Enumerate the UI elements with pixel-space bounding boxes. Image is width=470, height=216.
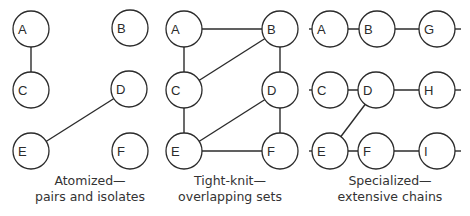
node-label: B (267, 22, 276, 37)
node-label: I (424, 144, 428, 159)
node-label: F (117, 144, 125, 159)
panel-specialized: ABGCDHEFI Specialized— extensive chains (309, 11, 461, 204)
node-label: C (171, 83, 180, 98)
node-label: E (18, 144, 27, 159)
node-e: E (312, 133, 348, 169)
node-f: F (112, 133, 148, 169)
node-f: F (358, 133, 394, 169)
node-label: E (317, 144, 326, 159)
caption-line-2: pairs and isolates (35, 189, 145, 204)
panel-tight-knit: ABCDEF Tight-knit— overlapping sets (166, 11, 298, 204)
node-a: A (166, 11, 202, 47)
node-a: A (13, 11, 49, 47)
node-e: E (13, 133, 49, 169)
node-label: D (267, 83, 276, 98)
caption-line-1: Tight-knit— (193, 173, 266, 188)
node-d: D (111, 71, 147, 107)
node-c: C (312, 72, 348, 108)
nodes: ABCDEF (13, 10, 148, 169)
node-b: B (262, 11, 298, 47)
node-d: D (358, 72, 394, 108)
node-label: E (171, 144, 180, 159)
node-g: G (419, 11, 455, 47)
node-i: I (419, 133, 455, 169)
node-label: B (117, 21, 126, 36)
nodes: ABGCDHEFI (312, 11, 455, 169)
node-label: C (317, 83, 326, 98)
node-d: D (262, 72, 298, 108)
network-diagram: ABCDEF Atomized— pairs and isolates ABCD… (0, 0, 470, 216)
node-h: H (419, 72, 455, 108)
node-label: F (363, 144, 371, 159)
node-b: B (112, 10, 148, 46)
node-c: C (166, 72, 202, 108)
node-label: B (364, 22, 373, 37)
node-label: D (116, 82, 125, 97)
caption-line-1: Specialized— (348, 173, 431, 188)
node-label: A (317, 22, 326, 37)
panel-atomized: ABCDEF Atomized— pairs and isolates (13, 10, 148, 204)
node-label: F (267, 144, 275, 159)
node-b: B (359, 11, 395, 47)
node-label: A (18, 22, 27, 37)
node-label: A (171, 22, 180, 37)
node-label: C (18, 83, 27, 98)
node-e: E (166, 133, 202, 169)
caption-line-2: extensive chains (338, 189, 443, 204)
node-c: C (13, 72, 49, 108)
node-label: G (424, 22, 434, 37)
node-f: F (262, 133, 298, 169)
node-label: D (363, 83, 372, 98)
node-a: A (312, 11, 348, 47)
caption-line-1: Atomized— (54, 173, 125, 188)
nodes: ABCDEF (166, 11, 298, 169)
node-label: H (424, 83, 433, 98)
caption-line-2: overlapping sets (178, 189, 282, 204)
